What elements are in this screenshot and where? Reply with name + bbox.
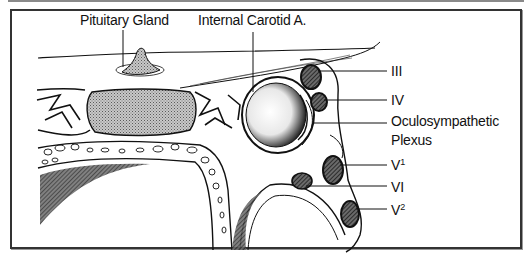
- label-v1-base: V: [391, 157, 400, 173]
- label-pituitary-gland: Pituitary Gland: [80, 13, 169, 28]
- label-nerve-iii: III: [391, 64, 402, 79]
- label-nerve-vi: VI: [391, 180, 404, 195]
- nerve-v2: [341, 201, 359, 227]
- label-v2-base: V: [391, 202, 400, 218]
- nerve-iv: [311, 93, 327, 111]
- cortical-bone: [38, 142, 345, 250]
- label-v2-sup: 2: [400, 202, 405, 212]
- label-oculosympathetic: Oculosympathetic: [391, 114, 499, 129]
- nerve-v1: [323, 156, 343, 184]
- label-nerve-v1: V1: [391, 158, 405, 173]
- label-nerve-v2: V2: [391, 203, 405, 218]
- label-v1-sup: 1: [400, 157, 405, 167]
- nerve-iii: [301, 65, 321, 89]
- nerve-vi: [292, 173, 312, 189]
- label-internal-carotid: Internal Carotid A.: [198, 13, 306, 28]
- label-nerve-iv: IV: [391, 93, 404, 108]
- sphenoid-sinus: [87, 89, 196, 136]
- anatomy-illustration: [0, 0, 532, 259]
- label-plexus: Plexus: [391, 133, 432, 148]
